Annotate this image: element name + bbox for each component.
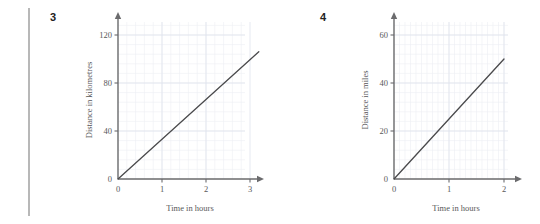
chart-4-xtick-1: 1 [447,184,451,194]
chart-3-xtick-1: 1 [160,184,164,194]
chart-3-ytick-3: 120 [99,30,112,40]
chart-4-xtick-2: 2 [502,184,506,194]
chart-4-ytick-0: 0 [384,174,388,184]
chart-4-y-axis-title: Distance in miles [360,70,370,129]
chart-4-ytick-1: 20 [380,126,389,136]
chart-3-x-axis-title: Time in hours [166,203,213,213]
chart-4-ytick-2: 40 [380,78,389,88]
chart-3-y-axis-title: Distance in kilometres [84,62,94,138]
chart-3-ytick-2: 80 [104,78,113,88]
chart-3-svg: 012304080120 Time in hours Distance in k… [0,0,270,224]
chart-4-gridlines [394,22,508,179]
chart-3-xtick-2: 2 [204,184,208,194]
chart-4-ytick-3: 60 [380,30,389,40]
chart-3-axes [115,12,264,182]
chart-4-xtick-0: 0 [392,184,396,194]
chart-4-x-axis-title: Time in hours [432,203,479,213]
chart-4-figure: 0120204060 Time in hours Distance in mil… [270,0,540,224]
chart-3-xtick-0: 0 [116,184,120,194]
chart-3-figure: 012304080120 Time in hours Distance in k… [0,0,270,224]
worksheet-page: 3 4 012304080120 Time in hours Distance … [0,0,540,224]
chart-3-ytick-1: 40 [104,126,113,136]
chart-3-xtick-3: 3 [248,184,252,194]
chart-3-gridlines [118,22,250,179]
chart-4-svg: 0120204060 Time in hours Distance in mil… [270,0,540,224]
chart-3-ytick-0: 0 [108,174,112,184]
